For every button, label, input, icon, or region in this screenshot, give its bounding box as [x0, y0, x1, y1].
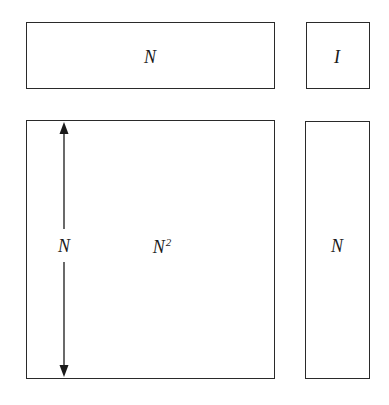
dimension-arrow-label: N: [58, 237, 70, 255]
dimension-arrow-icon: [0, 0, 389, 405]
